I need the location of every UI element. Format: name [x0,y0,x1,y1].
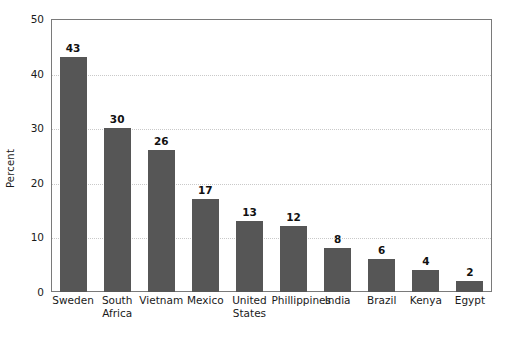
y-tick-label: 10 [31,231,44,243]
y-tick-label: 20 [31,177,44,189]
x-tick-label: India [316,294,360,307]
x-tick-label: Sweden [51,294,95,307]
x-tick-label: United States [227,294,271,320]
bar-chart: Percent 01020304050 4330261713128642 Swe… [0,0,508,337]
y-tick-label: 30 [31,122,44,134]
y-axis-title: Percent [0,0,20,337]
gridlines [52,20,491,291]
y-tick-label: 0 [37,286,44,298]
gridline [52,238,491,239]
y-tick-label: 40 [31,68,44,80]
gridline [52,184,491,185]
x-tick-label: Kenya [404,294,448,307]
gridline [52,75,491,76]
plot-area [51,19,492,292]
gridline [52,129,491,130]
x-axis-tick-labels: SwedenSouth AfricaVietnamMexicoUnited St… [51,294,492,337]
x-tick-label: Brazil [360,294,404,307]
x-tick-label: Egypt [448,294,492,307]
y-tick-label: 50 [31,13,44,25]
x-tick-label: Vietnam [139,294,183,307]
x-tick-label: Phillippines [272,294,316,307]
x-tick-label: South Africa [95,294,139,320]
x-tick-label: Mexico [183,294,227,307]
